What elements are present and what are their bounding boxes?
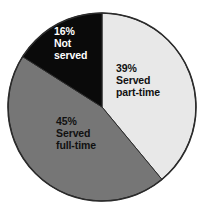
pie-chart-graphic <box>0 0 204 219</box>
pie-chart-figure: 16% Not served 39% Served part-time 45% … <box>0 0 204 219</box>
